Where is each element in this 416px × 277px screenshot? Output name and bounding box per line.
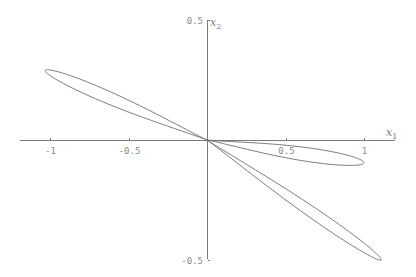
x-tick-label: -0.5 xyxy=(119,146,141,156)
x-tick-label: -1 xyxy=(45,146,56,156)
x-tick-label: 0.5 xyxy=(278,146,294,156)
y-tick-label: 0.5 xyxy=(187,16,203,26)
loop-left xyxy=(45,70,207,140)
phase-plot: -1-0.50.51 0.5-0.5 x1 x2 xyxy=(0,0,416,277)
loop-lower-right xyxy=(207,140,381,260)
x-axis-label: x1 xyxy=(386,126,397,141)
y-axis-label: x2 xyxy=(210,16,221,31)
curves xyxy=(45,70,381,261)
y-tick-label: -0.5 xyxy=(181,256,203,266)
x-tick-label: 1 xyxy=(362,146,367,156)
